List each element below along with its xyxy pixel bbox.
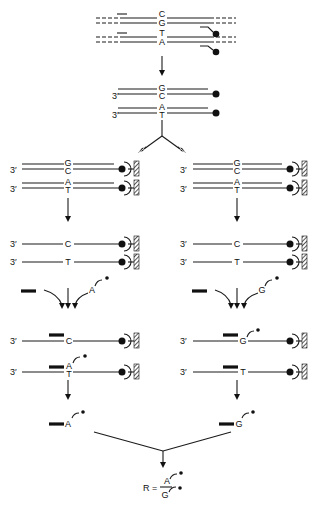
three-prime-label: 3′ xyxy=(10,367,17,377)
solid-support-icon xyxy=(302,161,307,176)
solid-support-icon xyxy=(302,364,307,379)
base-label: T xyxy=(240,367,246,377)
pcr-products: 3′ G C 3′ A T xyxy=(112,83,220,120)
base-label: T xyxy=(66,369,72,379)
solid-support-icon xyxy=(134,364,139,379)
arrow-down-icon xyxy=(159,56,165,76)
base-label: T xyxy=(234,257,240,267)
biotin-dot-icon xyxy=(213,31,220,38)
three-prime-label: 3′ xyxy=(112,110,119,120)
three-prime-label: 3′ xyxy=(10,165,17,175)
three-prime-label: 3′ xyxy=(112,91,119,101)
solid-support-icon xyxy=(134,333,139,348)
base-label: T xyxy=(65,257,71,267)
nucleotide-label: A xyxy=(89,285,95,295)
solid-support-icon xyxy=(134,180,139,195)
solid-support-icon xyxy=(134,161,139,176)
genomic-dna-duplex: C G T A xyxy=(96,9,236,55)
biotin-dot-icon xyxy=(213,110,220,117)
base-label: C xyxy=(65,239,72,249)
base-label: G xyxy=(239,336,246,346)
solid-support-icon xyxy=(302,333,307,348)
three-prime-label: 3′ xyxy=(10,257,17,267)
ratio-denominator: G xyxy=(161,490,168,500)
base-label: C xyxy=(234,166,241,176)
solid-support-icon xyxy=(134,236,139,251)
three-prime-label: 3′ xyxy=(180,257,187,267)
three-prime-label: 3′ xyxy=(180,165,187,175)
ratio-formula: R = A G xyxy=(143,471,183,500)
base-label: T xyxy=(234,185,240,195)
three-prime-label: 3′ xyxy=(10,336,17,346)
ratio-label: R = xyxy=(143,483,157,493)
three-prime-label: 3′ xyxy=(10,239,17,249)
base-label: T xyxy=(65,185,71,195)
genotyping-diagram: C G T A 3′ G C 3′ A xyxy=(0,0,325,509)
base-label: C xyxy=(234,239,241,249)
three-prime-label: 3′ xyxy=(10,184,17,194)
product-label: G xyxy=(235,419,242,429)
three-prime-label: 3′ xyxy=(180,367,187,377)
base-label: C xyxy=(159,91,166,101)
solid-support-icon xyxy=(302,180,307,195)
biotin-dot-icon xyxy=(213,91,220,98)
base-label: G xyxy=(158,18,165,28)
base-label: C xyxy=(65,166,72,176)
three-prime-label: 3′ xyxy=(180,336,187,346)
base-label: C xyxy=(66,336,73,346)
three-prime-label: 3′ xyxy=(180,184,187,194)
biotin-dot-icon xyxy=(213,49,220,56)
ratio-numerator: A xyxy=(164,476,170,486)
split-arrows xyxy=(138,120,186,153)
left-branch: 3′ G C 3′ A T 3′ C 3′ xyxy=(10,158,139,429)
solid-support-icon xyxy=(302,254,307,269)
base-label: A xyxy=(159,37,165,47)
solid-support-icon xyxy=(134,254,139,269)
base-label: T xyxy=(159,110,165,120)
product-label: A xyxy=(65,419,71,429)
merge-arrows xyxy=(94,432,231,468)
three-prime-label: 3′ xyxy=(180,239,187,249)
nucleotide-label: G xyxy=(258,285,265,295)
solid-support-icon xyxy=(302,236,307,251)
right-branch: 3′ G C 3′ A T 3′ C 3′ T xyxy=(180,158,307,429)
